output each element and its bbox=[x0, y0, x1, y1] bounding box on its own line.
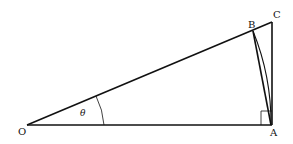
label-B: B bbox=[248, 19, 255, 30]
label-C: C bbox=[273, 9, 281, 20]
triangle-diagram: O A B C θ bbox=[0, 0, 293, 144]
label-theta: θ bbox=[80, 108, 86, 118]
angle-arc-theta bbox=[96, 96, 104, 125]
segment-OC bbox=[27, 22, 272, 125]
label-O: O bbox=[18, 126, 26, 137]
label-A: A bbox=[269, 127, 278, 138]
